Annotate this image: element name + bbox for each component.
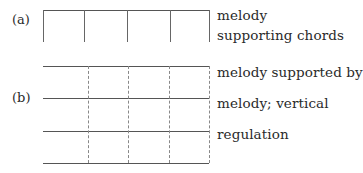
- part-a-top-line: [43, 10, 209, 11]
- part-b-caption-line-2: melody; vertical: [217, 95, 329, 111]
- part-a-vertical-line: [170, 10, 171, 42]
- part-b-label: (b): [12, 90, 30, 105]
- part-a-vertical-line: [127, 10, 128, 42]
- part-b-horizontal-line: [43, 98, 209, 99]
- part-a-caption-supporting-chords: supporting chords: [217, 27, 344, 43]
- part-b-horizontal-line: [43, 131, 209, 132]
- part-a-caption-melody: melody: [217, 7, 267, 23]
- part-b-caption-line-1: melody supported by: [217, 64, 363, 80]
- part-a-vertical-line: [84, 10, 85, 42]
- part-a-vertical-line: [43, 10, 44, 42]
- part-b-horizontal-line: [43, 163, 209, 164]
- part-b-dashed-vertical-line: [88, 66, 89, 163]
- part-b-dashed-vertical-line: [128, 66, 129, 163]
- part-b-horizontal-line: [43, 66, 209, 67]
- part-b-caption-line-3: regulation: [217, 126, 289, 142]
- part-a-vertical-line: [209, 10, 210, 42]
- part-a-label: (a): [12, 12, 30, 27]
- part-b-dashed-vertical-line: [169, 66, 170, 163]
- part-b-dashed-vertical-line: [209, 66, 210, 163]
